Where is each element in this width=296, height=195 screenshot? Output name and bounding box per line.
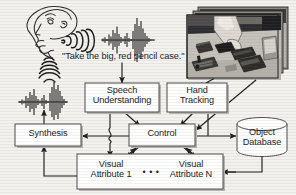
sound-wave-output-icon — [39, 58, 60, 82]
utterance-caption: "Take the big, red pencil case." — [62, 52, 202, 62]
node-control: Control — [129, 129, 195, 139]
speech-understanding-line1: Speech — [107, 85, 138, 95]
object-database-line1: Object — [249, 127, 275, 137]
photo-stack-item-1 — [187, 15, 281, 80]
visual-attribute-1-line1: Visual — [99, 159, 123, 169]
audio-waveform-output — [18, 82, 68, 120]
node-speech-understanding: Speech Understanding — [85, 86, 159, 106]
node-synthesis: Synthesis — [15, 129, 81, 139]
object-database-line2: Database — [243, 137, 282, 147]
node-hand-tracking: Hand Tracking — [167, 86, 227, 106]
visual-attribute-1-line2: Attribute 1 — [91, 169, 132, 179]
node-visual-attribute-n: Visual Attribute N — [160, 160, 222, 180]
node-object-database: Object Database — [237, 128, 287, 148]
figure-canvas: "Take the big, red pencil case." Speech … — [0, 0, 296, 195]
sound-wave-mouth-icon — [62, 29, 94, 52]
hand-tracking-line2: Tracking — [180, 95, 214, 105]
visual-attribute-n-line1: Visual — [179, 159, 203, 169]
visual-attribute-n-line2: Attribute N — [170, 169, 212, 179]
hand-tracking-line1: Hand — [186, 85, 208, 95]
speech-understanding-line2: Understanding — [93, 95, 151, 105]
